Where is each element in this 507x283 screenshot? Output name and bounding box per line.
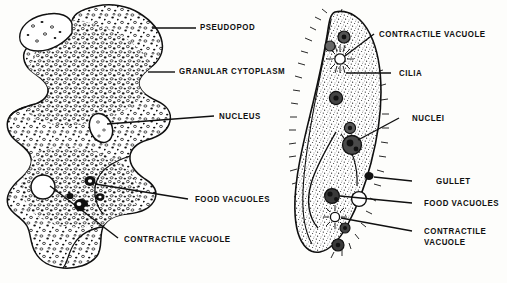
label-contractile-vacuole-bottom: CONTRACTILE VACUOLE xyxy=(424,226,486,248)
label-contractile-vacuole: CONTRACTILE VACUOLE xyxy=(124,234,231,245)
label-pseudopod: PSEUDOPOD xyxy=(200,22,255,33)
label-contractile-vacuole-top: CONTRACTILE VACUOLE xyxy=(379,29,486,40)
label-granular-cytoplasm: GRANULAR CYTOPLASM xyxy=(179,66,285,77)
label-nuclei: NUCLEI xyxy=(412,113,445,124)
label-food-vacuoles: FOOD VACUOLES xyxy=(195,194,270,205)
paramecium-gullet xyxy=(364,172,373,180)
amoeba-drawing xyxy=(7,5,214,268)
label-nucleus: NUCLEUS xyxy=(219,111,261,122)
leader-contractile-vacuole-bottom xyxy=(341,218,412,231)
leader-gullet xyxy=(374,177,412,181)
label-food-vacuoles-paramecium: FOOD VACUOLES xyxy=(424,198,499,209)
label-gullet: GULLET xyxy=(436,176,471,187)
paramecium-drawing xyxy=(289,9,412,258)
label-cilia: CILIA xyxy=(399,68,422,79)
biology-figure: PSEUDOPOD GRANULAR CYTOPLASM NUCLEUS FOO… xyxy=(0,0,507,283)
